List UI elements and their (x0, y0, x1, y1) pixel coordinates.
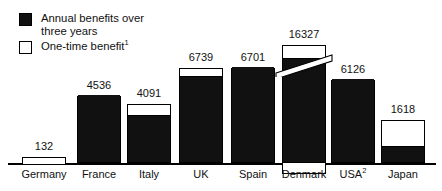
bar-segment-divider-japan (382, 146, 424, 147)
bar-segment-annual-usa (332, 79, 374, 162)
bar-segment-divider-denmark (283, 58, 325, 59)
x-axis-baseline (8, 163, 436, 165)
bar-segment-annual-uk (180, 75, 222, 162)
bar-value-label-usa: 6126 (319, 63, 387, 75)
bar-usa (331, 80, 375, 163)
bar-spain (231, 68, 275, 163)
bar-segment-onetime-japan (382, 121, 424, 147)
plot-area: 132Germany4536France4091Italy6739UK6701S… (0, 0, 442, 191)
bar-italy (127, 104, 171, 163)
bar-uk (179, 68, 223, 163)
x-axis-label-japan: Japan (367, 168, 439, 180)
bar-japan (381, 120, 425, 163)
bar-value-label-denmark: 16327 (270, 28, 338, 40)
bar-segment-annual-italy (128, 114, 170, 162)
bar-segment-annual-france (78, 95, 120, 162)
bar-segment-onetime-germany (23, 158, 65, 164)
bar-segment-annual-spain (232, 67, 274, 162)
bar-chart-figure: Annual benefits over three years One-tim… (0, 0, 442, 191)
bar-value-label-japan: 1618 (369, 103, 437, 115)
bar-segment-annual-japan (382, 145, 424, 162)
bar-value-label-germany: 132 (10, 140, 78, 152)
bar-france (77, 96, 121, 163)
bar-germany (22, 157, 66, 163)
bar-value-label-spain: 6701 (219, 51, 287, 63)
bar-segment-divider-uk (180, 76, 222, 77)
x-axis-label-footnote-marker: 2 (362, 166, 366, 175)
bar-segment-divider-italy (128, 115, 170, 116)
bar-value-label-italy: 4091 (115, 87, 183, 99)
